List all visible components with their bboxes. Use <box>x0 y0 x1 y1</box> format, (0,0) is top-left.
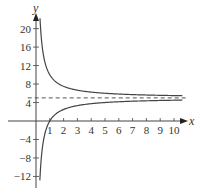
x-tick-label: 3 <box>75 124 81 136</box>
y-tick-label: 4 <box>26 97 32 109</box>
lower-curve <box>40 100 182 180</box>
y-tick-label: 16 <box>20 41 32 53</box>
upper-curve <box>40 18 182 95</box>
x-tick-label: 8 <box>144 124 150 136</box>
chart: xy1234567891020161284−4−8−12 <box>0 0 198 191</box>
y-tick-label: 8 <box>26 78 32 90</box>
y-tick-label: −4 <box>19 133 31 145</box>
y-tick-label: −12 <box>14 170 31 182</box>
y-tick-label: 12 <box>20 60 31 72</box>
x-tick-label: 2 <box>61 124 67 136</box>
y-tick-label: 20 <box>20 23 32 35</box>
x-tick-label: 10 <box>169 124 181 136</box>
x-tick-label: 4 <box>88 124 94 136</box>
x-axis-label: x <box>188 114 195 128</box>
x-tick-label: 9 <box>157 124 163 136</box>
x-tick-label: 5 <box>102 124 108 136</box>
x-axis-arrow-icon <box>180 118 188 124</box>
x-tick-label: 7 <box>130 124 136 136</box>
x-tick-label: 6 <box>116 124 122 136</box>
y-axis-label: y <box>32 1 39 15</box>
y-tick-label: −8 <box>19 152 31 164</box>
